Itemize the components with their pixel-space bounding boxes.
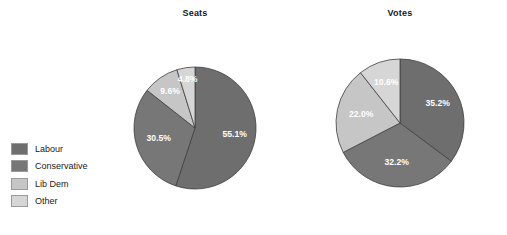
legend-swatch-icon (11, 143, 28, 155)
pie-slice-label: 4.8% (178, 74, 198, 84)
pie-slice-label: 35.2% (426, 98, 451, 108)
legend-item-label: Lib Dem (35, 178, 69, 190)
pie-slice-label: 10.6% (374, 77, 399, 87)
legend-item[interactable]: Labour (11, 140, 121, 158)
legend-swatch-icon (11, 178, 28, 190)
seats-chart-title: Seats (145, 8, 245, 18)
pie-slice-label: 30.5% (147, 133, 172, 143)
legend-item-label: Labour (35, 143, 63, 155)
legend-swatch-icon (11, 195, 28, 207)
legend: LabourConservativeLib DemOther (11, 140, 121, 210)
votes-chart-title: Votes (350, 8, 450, 18)
legend-item-label: Other (35, 195, 58, 207)
legend-item[interactable]: Other (11, 193, 121, 211)
legend-item[interactable]: Conservative (11, 158, 121, 176)
pie-slice-label: 22.0% (349, 109, 374, 119)
pie-slice-label: 55.1% (223, 129, 248, 139)
legend-swatch-icon (11, 160, 28, 172)
legend-item[interactable]: Lib Dem (11, 175, 121, 193)
votes-pie-chart: 35.2%32.2%22.0%10.6% (335, 58, 465, 188)
legend-item-label: Conservative (35, 160, 88, 172)
chart-canvas: Seats Votes 55.1%30.5%9.6%4.8% 35.2%32.2… (0, 0, 507, 235)
pie-slice-label: 9.6% (160, 86, 180, 96)
seats-pie-chart: 55.1%30.5%9.6%4.8% (133, 66, 257, 190)
pie-slice-label: 32.2% (385, 157, 410, 167)
